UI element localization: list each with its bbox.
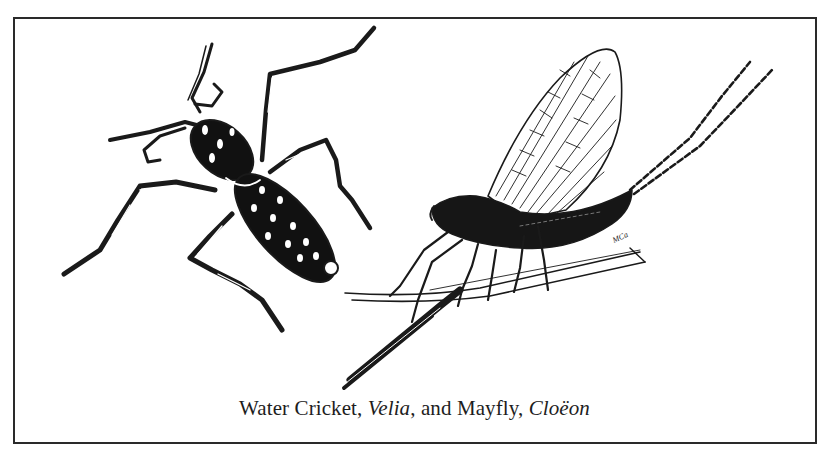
figure-caption: Water Cricket, Velia, and Mayfly, Cloëon: [0, 396, 829, 421]
artist-signature: MCa: [610, 230, 629, 245]
caption-genus-velia: Velia: [368, 396, 411, 420]
caption-genus-cloeon: Cloëon: [529, 396, 590, 420]
caption-text-2: , and Mayfly,: [410, 396, 528, 420]
caption-text-1: Water Cricket,: [239, 396, 368, 420]
insect-illustration: MCa: [0, 0, 829, 458]
water-cricket-drawing: [64, 28, 374, 330]
mayfly-drawing: [344, 49, 772, 388]
